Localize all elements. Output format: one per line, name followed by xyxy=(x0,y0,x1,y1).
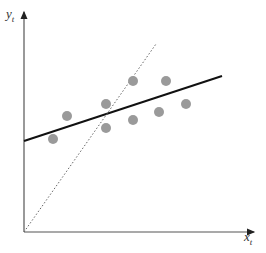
data-point xyxy=(154,107,164,117)
data-point xyxy=(62,111,72,121)
reference-line xyxy=(24,44,156,232)
data-point xyxy=(101,99,111,109)
data-point xyxy=(128,76,138,86)
data-point xyxy=(101,123,111,133)
y-axis-label-subscript: t xyxy=(12,14,15,24)
x-axis-label-subscript: t xyxy=(250,237,253,247)
data-point xyxy=(181,99,191,109)
scatter-plot xyxy=(0,0,266,253)
data-point xyxy=(128,115,138,125)
x-axis-label: xt xyxy=(244,229,252,247)
axes xyxy=(24,12,254,232)
data-point xyxy=(161,76,171,86)
data-point xyxy=(48,134,58,144)
fitted-regression-line xyxy=(24,76,222,141)
y-axis-label: yt xyxy=(6,6,14,24)
